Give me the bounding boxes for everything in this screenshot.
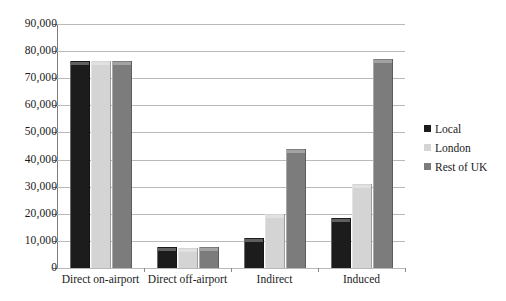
bar-fill — [244, 238, 264, 268]
bar-highlight — [353, 185, 371, 188]
bar-edge-right — [110, 61, 111, 268]
x-axis-tick — [318, 268, 319, 272]
bar-edge-right — [197, 248, 198, 268]
bar — [373, 59, 393, 268]
bar — [112, 61, 132, 268]
legend-item: Local — [424, 120, 502, 137]
bar-edge-right — [305, 149, 306, 268]
y-axis: 010,00020,00030,00040,00050,00060,00070,… — [0, 0, 57, 301]
bar-edge-left — [373, 59, 374, 268]
bar-edge-right — [176, 247, 177, 268]
bar-highlight — [71, 62, 89, 65]
y-axis-tick-label: 30,000 — [5, 181, 57, 193]
bar-highlight — [374, 60, 392, 63]
bar-edge-right — [284, 214, 285, 268]
y-axis-tick-label: 10,000 — [5, 235, 57, 247]
bar-fill — [286, 149, 306, 268]
y-axis-tick-label: 70,000 — [5, 72, 57, 84]
chart-legend: LocalLondonRest of UK — [424, 120, 502, 177]
legend-item: London — [424, 139, 502, 156]
legend-label: Rest of UK — [435, 161, 487, 173]
bar — [178, 248, 198, 268]
y-axis-tick-label: 60,000 — [5, 99, 57, 111]
bar-highlight — [179, 249, 197, 252]
bar-edge-left — [286, 149, 287, 268]
x-axis-tick — [144, 268, 145, 272]
y-axis-tick-label: 20,000 — [5, 208, 57, 220]
bar-edge-right — [392, 59, 393, 268]
bar-edge-right — [371, 184, 372, 268]
bar-highlight — [245, 239, 263, 242]
bar-edge-left — [331, 218, 332, 268]
legend-label: London — [435, 142, 471, 154]
bar-fill — [91, 61, 111, 268]
x-axis-tick — [231, 268, 232, 272]
legend-swatch-icon — [424, 144, 431, 151]
plot-area — [57, 24, 405, 268]
bar-edge-right — [218, 247, 219, 268]
y-axis-tick-label: 80,000 — [5, 45, 57, 57]
bar-highlight — [200, 248, 218, 251]
legend-swatch-icon — [424, 163, 431, 170]
bar-group — [318, 24, 405, 268]
y-axis-tick-label: 90,000 — [5, 18, 57, 30]
bar — [244, 238, 264, 268]
bar-edge-left — [352, 184, 353, 268]
bar-highlight — [266, 215, 284, 218]
bar-fill — [265, 214, 285, 268]
bar-highlight — [158, 248, 176, 251]
bar-edge-left — [70, 61, 71, 268]
y-axis-tick-label: 0 — [5, 262, 57, 274]
bar-group — [144, 24, 231, 268]
bar-highlight — [332, 219, 350, 222]
y-axis-tick-label: 50,000 — [5, 126, 57, 138]
bar-chart: 010,00020,00030,00040,00050,00060,00070,… — [0, 0, 506, 301]
y-axis-tick-label: 40,000 — [5, 154, 57, 166]
legend-label: Local — [435, 123, 461, 135]
bar — [91, 61, 111, 268]
bar-fill — [331, 218, 351, 268]
bar-edge-right — [89, 61, 90, 268]
bar-fill — [352, 184, 372, 268]
bar-edge-left — [265, 214, 266, 268]
bar-edge-right — [263, 238, 264, 268]
bar-edge-left — [112, 61, 113, 268]
bar-group — [57, 24, 144, 268]
x-axis-category-label: Direct on-airport — [57, 273, 144, 286]
bar-highlight — [113, 62, 131, 65]
bar-highlight — [287, 150, 305, 153]
bar-group — [231, 24, 318, 268]
bar — [352, 184, 372, 268]
bar — [70, 61, 90, 268]
bar-fill — [373, 59, 393, 268]
bar-edge-right — [350, 218, 351, 268]
bar — [265, 214, 285, 268]
bar-fill — [70, 61, 90, 268]
bar-fill — [112, 61, 132, 268]
legend-item: Rest of UK — [424, 158, 502, 175]
legend-swatch-icon — [424, 125, 431, 132]
x-axis-category-label: Indirect — [231, 273, 318, 286]
bar-edge-left — [244, 238, 245, 268]
bar — [286, 149, 306, 268]
bar-highlight — [92, 62, 110, 65]
bar — [199, 247, 219, 268]
bar-edge-left — [91, 61, 92, 268]
x-axis-category-label: Direct off-airport — [144, 273, 231, 286]
bar — [157, 247, 177, 268]
bar — [331, 218, 351, 268]
x-axis-category-label: Induced — [318, 273, 405, 286]
bar-edge-right — [131, 61, 132, 268]
x-axis-tick — [405, 268, 406, 272]
